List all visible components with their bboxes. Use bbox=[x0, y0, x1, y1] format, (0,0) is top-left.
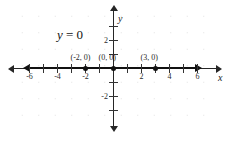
data-point-label: (0, 0) bbox=[99, 53, 116, 62]
equation-label: y = 0 bbox=[57, 27, 83, 43]
x-tick-label: 2 bbox=[134, 72, 150, 81]
x-tick-label: -4 bbox=[50, 72, 66, 81]
x-tick bbox=[127, 64, 128, 73]
x-tick-label: 4 bbox=[162, 72, 178, 81]
equation-rest: = 0 bbox=[63, 27, 83, 42]
x-axis-left-arrow-icon bbox=[8, 65, 14, 73]
x-tick-label: 6 bbox=[190, 72, 206, 81]
y-tick-label: -2 bbox=[96, 92, 108, 101]
data-point bbox=[111, 66, 116, 71]
y-tick-label: 2 bbox=[96, 36, 108, 45]
y-axis-down-arrow-icon bbox=[110, 126, 118, 132]
x-tick bbox=[71, 64, 72, 73]
y-tick bbox=[109, 40, 118, 41]
coordinate-plane-graph: -6-4-2246 2-2 x y y = 0 (-2, 0)(0, 0)(3,… bbox=[0, 0, 230, 142]
x-tick-label: -6 bbox=[22, 72, 38, 81]
x-tick bbox=[43, 64, 44, 73]
data-point-label: (3, 0) bbox=[141, 53, 158, 62]
y-tick bbox=[109, 82, 118, 83]
data-point bbox=[153, 66, 158, 71]
x-tick bbox=[183, 64, 184, 73]
y-tick bbox=[109, 26, 118, 27]
data-point-label: (-2, 0) bbox=[71, 53, 91, 62]
y-axis-label: y bbox=[118, 13, 122, 24]
y-tick bbox=[109, 110, 118, 111]
y-tick bbox=[109, 96, 118, 97]
x-tick-label: -2 bbox=[78, 72, 94, 81]
x-axis-label: x bbox=[218, 72, 222, 83]
x-tick bbox=[99, 64, 100, 73]
data-point bbox=[83, 66, 88, 71]
y-axis-up-arrow-icon bbox=[110, 5, 118, 11]
